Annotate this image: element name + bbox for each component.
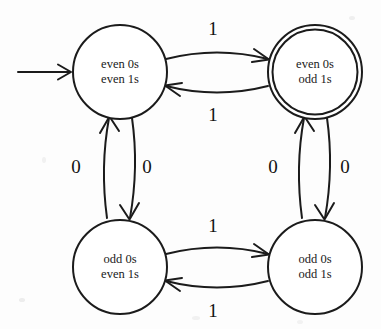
edge-bottom-left bbox=[165, 278, 268, 291]
edge-left-up bbox=[100, 117, 119, 219]
state-node-even0-odd1[interactable] bbox=[268, 25, 362, 119]
edge-right-up bbox=[295, 117, 314, 219]
edge-left-down bbox=[120, 118, 139, 220]
state-node-odd0-even1[interactable] bbox=[73, 220, 167, 314]
edge-right-down bbox=[315, 118, 334, 220]
state-node-odd0-odd1[interactable] bbox=[268, 220, 362, 314]
fsm-diagram-svg bbox=[0, 0, 381, 329]
edge-top-left bbox=[165, 83, 268, 96]
edge-bottom-right bbox=[166, 244, 269, 257]
start-arrow bbox=[18, 65, 71, 80]
edge-top-right bbox=[166, 49, 269, 62]
fsm-diagram-canvas: even 0s even 1s even 0s odd 1s odd 0s ev… bbox=[0, 0, 381, 329]
state-node-even0-even1[interactable] bbox=[73, 25, 167, 119]
